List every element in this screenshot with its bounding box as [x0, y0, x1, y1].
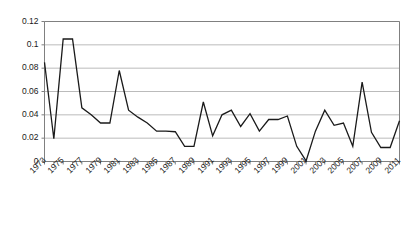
line-chart: 00.020.040.060.080.10.12 197319751977197…	[0, 0, 417, 226]
axis-ticks	[42, 22, 400, 165]
chart-canvas	[0, 0, 417, 226]
y-axis-tick-label: 0.12	[0, 17, 39, 26]
y-axis-tick-label: 0.06	[0, 87, 39, 96]
y-axis-tick-label: 0.1	[0, 40, 39, 49]
y-axis-tick-label: 0.02	[0, 133, 39, 142]
data-line	[45, 39, 400, 161]
data-series-line	[45, 39, 400, 161]
y-axis-tick-label: 0.08	[0, 63, 39, 72]
y-axis-tick-label: 0.04	[0, 110, 39, 119]
